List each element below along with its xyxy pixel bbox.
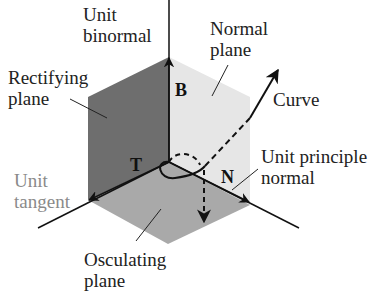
label-curve: Curve	[273, 89, 319, 110]
label-unit-principle-normal: Unit principle normal	[261, 146, 367, 188]
label-osculating-plane: Osculating plane	[84, 249, 166, 291]
label-normal-plane: Normal plane	[210, 18, 268, 60]
vector-t-label: T	[130, 155, 142, 176]
label-rectifying-plane: Rectifying plane	[8, 67, 88, 109]
vector-n-label: N	[221, 167, 234, 188]
label-unit-binormal: Unit binormal	[83, 4, 152, 46]
label-unit-tangent: Unit tangent	[14, 170, 70, 212]
vector-b-label: B	[175, 80, 187, 101]
